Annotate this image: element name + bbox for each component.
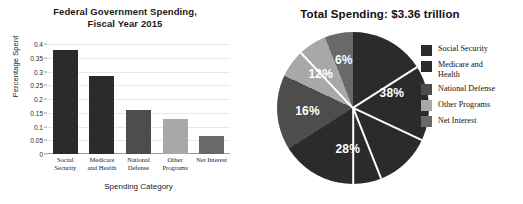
bar-slot — [157, 44, 194, 154]
legend-color-swatch — [421, 116, 432, 127]
bar-chart-y-axis-label: Percentage Spent — [11, 24, 20, 110]
legend-item: Social Security — [421, 44, 523, 56]
legend-item-label: Medicare andHealth — [438, 60, 483, 79]
y-axis-tick-label: 0.3 — [34, 68, 43, 75]
category-label-line: Defense — [120, 164, 157, 172]
y-axis-tick-label: 0.15 — [30, 109, 43, 116]
bar-chart-title: Federal Government Spending, Fiscal Year… — [0, 6, 250, 30]
legend-item: National Defense — [421, 84, 523, 96]
y-axis-tick-label: 0.4 — [34, 41, 43, 48]
bar-slot — [47, 44, 84, 154]
bar-chart-panel: Federal Government Spending, Fiscal Year… — [0, 0, 250, 204]
category-label: OtherPrograms — [157, 156, 194, 171]
legend-item-label-line: Net Interest — [438, 116, 476, 126]
bar — [199, 136, 224, 154]
legend-color-swatch — [421, 45, 432, 56]
bar — [53, 50, 78, 155]
legend-item-label-line: Health — [438, 70, 483, 80]
category-label-line: Medicare — [84, 156, 121, 164]
two-chart-figure: Federal Government Spending, Fiscal Year… — [0, 0, 523, 204]
y-axis-tick-label: 0.25 — [30, 82, 43, 89]
category-label: Net Interest — [193, 156, 230, 171]
pie-slice-value-label: 12% — [308, 67, 333, 81]
category-label-line: Other — [157, 156, 194, 164]
bar-chart-title-line-1: Federal Government Spending, — [0, 6, 250, 18]
bar-slot — [120, 44, 157, 154]
legend-item-label: National Defense — [438, 84, 495, 94]
bar-slot — [84, 44, 121, 154]
pie-slice-value-label: 38% — [380, 86, 405, 100]
legend-item-label: Social Security — [438, 44, 488, 54]
legend-color-swatch — [421, 100, 432, 111]
legend-item-label: Net Interest — [438, 116, 476, 126]
pie-chart-panel: Total Spending: $3.36 trillion 38%28%16%… — [255, 0, 523, 204]
category-label-line: Net Interest — [193, 156, 230, 164]
legend-item-label-line: National Defense — [438, 84, 495, 94]
legend-item: Medicare andHealth — [421, 60, 523, 79]
pie-slice-value-label: 16% — [295, 104, 320, 118]
y-axis-tick-label: 0.2 — [34, 96, 43, 103]
category-label: SocialSecurity — [47, 156, 84, 171]
y-axis-tick-label: 0.1 — [34, 123, 43, 130]
pie-chart-legend: Social SecurityMedicare andHealthNationa… — [421, 44, 523, 132]
bar — [163, 119, 188, 154]
legend-item-label: Other Programs — [438, 100, 490, 110]
bar-chart-bars — [47, 44, 230, 154]
y-axis-tick-label: 0.05 — [30, 137, 43, 144]
bar-chart-x-axis-label: Spending Category — [47, 182, 230, 191]
pie-slice-value-label: 6% — [335, 53, 353, 67]
category-label-line: and Health — [84, 164, 121, 172]
legend-color-swatch — [421, 84, 432, 95]
legend-color-swatch — [421, 61, 432, 72]
category-label-line: Security — [47, 164, 84, 172]
bar-chart-title-line-2: Fiscal Year 2015 — [0, 18, 250, 30]
gridline — [47, 154, 230, 155]
category-label: Medicareand Health — [84, 156, 121, 171]
bar-chart-category-labels: SocialSecurityMedicareand HealthNational… — [47, 156, 230, 171]
category-label: NationalDefense — [120, 156, 157, 171]
legend-item-label-line: Medicare and — [438, 60, 483, 70]
category-label-line: National — [120, 156, 157, 164]
pie-chart-graphic: 38%28%16%12%6% — [277, 32, 429, 184]
legend-item: Net Interest — [421, 116, 523, 128]
bar-slot — [193, 44, 230, 154]
y-axis-tick-label: 0.35 — [30, 54, 43, 61]
y-axis-tick-label: 0 — [39, 151, 43, 158]
category-label-line: Programs — [157, 164, 194, 172]
bar — [89, 76, 114, 154]
category-label-line: Social — [47, 156, 84, 164]
bar-chart-plot-area: 00.050.10.150.20.250.30.350.4 — [47, 44, 230, 154]
legend-item: Other Programs — [421, 100, 523, 112]
bar — [126, 110, 151, 154]
pie-slice-value-label: 28% — [335, 142, 360, 156]
legend-item-label-line: Other Programs — [438, 100, 490, 110]
pie-chart-title: Total Spending: $3.36 trillion — [255, 8, 505, 20]
legend-item-label-line: Social Security — [438, 44, 488, 54]
